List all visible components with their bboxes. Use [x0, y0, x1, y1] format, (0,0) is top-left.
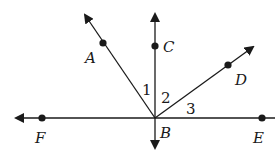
label-b: B [159, 124, 171, 142]
label-f: F [34, 129, 46, 147]
label-d: D [234, 71, 247, 89]
point-a [99, 39, 106, 46]
point-f [38, 114, 45, 121]
angle-label-2: 2 [161, 89, 171, 107]
point-d [224, 61, 231, 68]
label-e: E [252, 129, 264, 147]
angle-diagram: A C D F E B 1 2 3 [0, 0, 275, 150]
label-c: C [163, 38, 175, 56]
angle-label-3: 3 [186, 100, 196, 118]
angle-label-1: 1 [142, 81, 152, 99]
point-e [258, 114, 265, 121]
label-a: A [83, 49, 96, 67]
point-c [151, 42, 158, 49]
